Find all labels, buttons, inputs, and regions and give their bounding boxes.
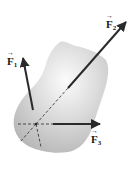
vector-arrow-icon: → bbox=[7, 50, 14, 57]
f2-vector-symbol: →F bbox=[106, 19, 113, 30]
label-f2: →F2 bbox=[106, 19, 116, 32]
force-diagram: →F1 →F2 →F3 bbox=[0, 0, 128, 175]
label-f1: →F1 bbox=[7, 56, 17, 69]
vector-arrow-icon: → bbox=[106, 13, 113, 20]
point-of-application bbox=[35, 123, 37, 125]
f1-vector-symbol: →F bbox=[7, 56, 14, 67]
label-f3: →F3 bbox=[91, 134, 101, 147]
f3-vector-symbol: →F bbox=[91, 134, 98, 145]
vector-arrow-icon: → bbox=[91, 128, 98, 135]
